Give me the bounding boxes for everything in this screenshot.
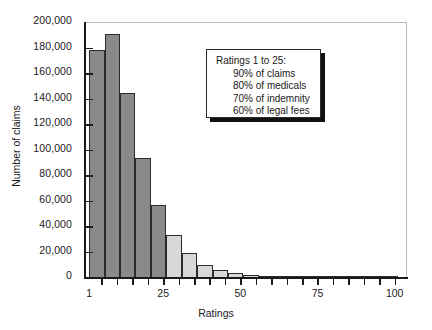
annotation-title: Ratings 1 to 25: [216,55,320,68]
y-tick-label: 0 [66,270,72,281]
y-tick-mark [86,99,93,101]
annotation-box: Ratings 1 to 25: 90% of claims80% of med… [206,49,321,118]
y-tick-label: 100,000 [33,143,72,154]
y-tick-mark [86,252,93,254]
bar [105,34,120,278]
annotation-line: 80% of medicals [216,80,320,93]
bar [120,93,135,278]
x-axis-title: Ratings [0,307,432,319]
histogram-chart: Number of claims 020,00040,00060,00080,0… [0,0,432,330]
y-tick-label: 120,000 [33,117,72,128]
y-axis-title: Number of claims [10,81,22,211]
x-tick-mark [225,279,227,285]
x-tick-mark [194,279,196,285]
x-tick-mark [148,279,150,285]
y-tick-mark [86,226,93,228]
x-tick-mark [364,279,366,285]
annotation-line: 70% of indemnity [216,93,320,106]
x-tick-mark [395,279,397,285]
x-tick-label: 25 [143,287,183,299]
y-tick-mark [86,73,93,75]
y-tick-label: 80,000 [39,168,72,179]
x-tick-mark [179,279,181,285]
y-axis: Number of claims 020,00040,00060,00080,0… [0,0,84,330]
x-tick-mark [317,279,319,285]
bar [89,50,104,278]
bar [182,253,197,279]
x-tick-mark [163,279,165,285]
y-tick-label: 180,000 [33,41,72,52]
bar [151,205,166,278]
bar [135,158,150,278]
x-tick-mark [271,279,273,285]
y-tick-mark [86,175,93,177]
x-tick-mark [240,279,242,285]
y-tick-mark [86,124,93,126]
x-tick-mark [379,279,381,285]
annotation-line: 90% of claims [216,68,320,81]
y-tick-label: 40,000 [39,219,72,230]
annotation-line: 60% of legal fees [216,105,320,118]
y-tick-label: 20,000 [39,245,72,256]
x-tick-label: 50 [220,287,260,299]
x-tick-mark [302,279,304,285]
x-tick-mark [117,279,119,285]
x-tick-mark [287,279,289,285]
x-tick-mark [348,279,350,285]
y-tick-mark [86,48,93,50]
y-tick-label: 160,000 [33,66,72,77]
y-tick-mark [86,150,93,152]
y-tick-mark [86,201,93,203]
x-tick-mark [132,279,134,285]
y-tick-label: 200,000 [33,15,72,26]
x-tick-label: 1 [69,287,109,299]
x-tick-mark [333,279,335,285]
x-tick-mark [256,279,258,285]
bar [166,235,181,278]
x-tick-label: 75 [297,287,337,299]
annotation-lines: 90% of claims80% of medicals70% of indem… [216,68,320,118]
x-tick-label: 100 [375,287,415,299]
x-tick-mark [209,279,211,285]
y-tick-label: 60,000 [39,194,72,205]
y-tick-label: 140,000 [33,92,72,103]
x-tick-mark [101,279,103,285]
